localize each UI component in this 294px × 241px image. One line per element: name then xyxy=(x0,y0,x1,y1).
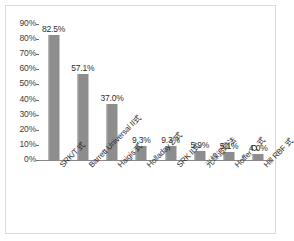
bar[interactable] xyxy=(48,35,59,160)
y-axis-tick-label: 30% xyxy=(20,110,36,119)
y-axis-tick-label: 20% xyxy=(20,125,36,134)
y-axis-tick-label: 90% xyxy=(20,19,36,28)
bar[interactable] xyxy=(253,154,264,160)
x-axis-category-label: SRK II式 xyxy=(175,163,181,169)
bar-group[interactable]: 5.9% xyxy=(185,24,214,160)
y-axis-tick-label: 0% xyxy=(24,155,36,164)
x-axis-category-label: 光線追跡法 xyxy=(204,163,210,169)
bar-group[interactable]: 9.3% xyxy=(127,24,156,160)
x-axis-category-label: Hill RBF 式 xyxy=(262,163,268,169)
y-axis-tick-label: 50% xyxy=(20,79,36,88)
y-axis-tick-label: 60% xyxy=(20,64,36,73)
y-axis-tick-label: 10% xyxy=(20,140,36,149)
x-axis-category-label: Haigis 式 xyxy=(116,163,122,169)
y-axis-tick-label: 80% xyxy=(20,34,36,43)
y-axis-tick-label: 70% xyxy=(20,49,36,58)
bar-value-label: 57.1% xyxy=(71,64,94,73)
bar-value-label: 82.5% xyxy=(42,25,65,34)
bar-group[interactable]: 82.5% xyxy=(39,24,68,160)
y-axis-tick-labels: 90%80%70%60%50%40%30%20%10%0% xyxy=(6,6,36,235)
y-axis-tick-label: 40% xyxy=(20,95,36,104)
bar-value-label: 37.0% xyxy=(101,94,124,103)
x-axis-category-label: Hoffer Q 式 xyxy=(233,163,239,169)
x-axis-category-label: Holladay 2 式 xyxy=(145,163,151,169)
x-axis-category-label: Barrett Universal II式 xyxy=(87,163,93,169)
chart-frame: 90%80%70%60%50%40%30%20%10%0% 82.5%57.1%… xyxy=(5,5,276,234)
x-axis-category-labels: SRK/T 式Barrett Universal II式Haigis 式Holl… xyxy=(39,161,273,233)
plot-area: 82.5%57.1%37.0%9.3%9.3%5.9%5.1%4.0% xyxy=(39,24,273,160)
bar-group[interactable]: 57.1% xyxy=(68,24,97,160)
x-axis-category-label: SRK/T 式 xyxy=(58,163,64,169)
